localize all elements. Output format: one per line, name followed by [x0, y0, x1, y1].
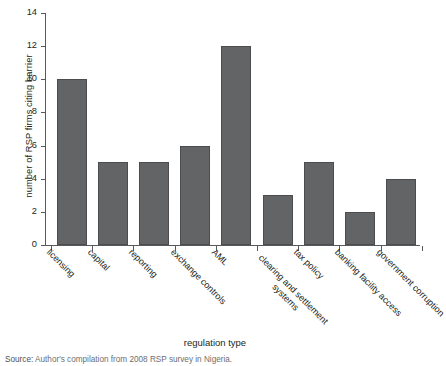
- bar: [345, 212, 375, 245]
- bar: [304, 162, 334, 245]
- x-axis-category-label: licensing: [44, 247, 77, 280]
- y-axis-tick: [41, 212, 46, 213]
- y-axis-tick: [41, 79, 46, 80]
- y-axis-tick: [41, 146, 46, 147]
- plot-area: 02468101214: [45, 13, 420, 246]
- y-axis-tick-label: 0: [0, 239, 37, 249]
- source-prefix: Source:: [5, 355, 33, 364]
- x-axis-title: regulation type: [0, 337, 430, 348]
- x-axis-category-label: tax policy: [291, 247, 326, 282]
- bar: [386, 179, 416, 245]
- bar: [98, 162, 128, 245]
- y-axis-tick: [41, 46, 46, 47]
- y-axis-tick-label: 12: [0, 40, 37, 50]
- source-note: Source: Author's compilation from 2008 R…: [5, 355, 232, 364]
- y-axis-tick: [41, 179, 46, 180]
- x-axis-category-label: reporting: [127, 247, 160, 280]
- x-axis-line: [45, 245, 420, 246]
- y-axis-tick: [41, 112, 46, 113]
- y-axis-tick-label: 6: [0, 140, 37, 150]
- y-axis-tick-label: 4: [0, 173, 37, 183]
- y-axis-tick-label: 14: [0, 7, 37, 17]
- x-axis-category-label: government corruption: [374, 247, 446, 319]
- bar: [139, 162, 169, 245]
- bar: [221, 46, 251, 245]
- bar: [263, 195, 293, 245]
- bar: [180, 146, 210, 245]
- x-axis-category-label: AML: [209, 247, 230, 268]
- bar: [57, 79, 87, 245]
- y-axis-tick-label: 10: [0, 73, 37, 83]
- x-axis-category-label: capital: [85, 247, 111, 273]
- x-axis-category-labels: licensingcapitalreportingexchange contro…: [45, 247, 430, 337]
- x-axis-category-label: clearing and settlement systems: [242, 247, 335, 340]
- source-text: Author's compilation from 2008 RSP surve…: [35, 355, 232, 364]
- y-axis-tick-label: 8: [0, 106, 37, 116]
- y-axis-tick: [41, 245, 46, 246]
- y-axis-tick-label: 2: [0, 206, 37, 216]
- y-axis-tick: [41, 13, 46, 14]
